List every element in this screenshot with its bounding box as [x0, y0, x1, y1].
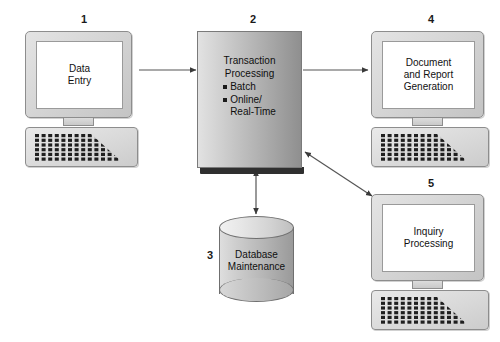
process-box-transaction-processing: Transaction Processing Batch Online/ Rea… — [197, 31, 302, 168]
process-box-content: Transaction Processing Batch Online/ Rea… — [198, 55, 301, 119]
node-document-report-generation[interactable]: Document and Report Generation — [371, 31, 491, 171]
monitor-screen-inquiry: Inquiry Processing — [382, 204, 475, 272]
keyboard-document-report[interactable] — [371, 127, 489, 167]
monitor-neck-document-report — [412, 118, 443, 126]
keyboard-data-entry[interactable] — [25, 127, 138, 167]
keyboard-keys-icon — [35, 134, 130, 163]
node-database-maintenance[interactable]: Database Maintenance — [219, 216, 294, 306]
screen-label-document-report: Document and Report Generation — [402, 57, 455, 93]
screen-label-line: Entry — [68, 75, 91, 87]
screen-label-line: Data — [68, 63, 91, 75]
monitor-screen-document-report: Document and Report Generation — [382, 41, 475, 109]
cylinder-top-ellipse — [219, 216, 294, 239]
screen-label-data-entry: Data Entry — [66, 63, 93, 87]
process-bullet-continuation: Real-Time — [223, 106, 276, 119]
process-bullet-item: Online/ — [223, 94, 276, 107]
process-bullet-label: Batch — [230, 81, 256, 92]
cylinder-bottom-ellipse — [219, 278, 294, 302]
monitor-shell-data-entry: Data Entry — [25, 31, 132, 118]
process-heading-line: Transaction — [198, 55, 301, 68]
screen-label-line: Processing — [404, 238, 453, 250]
screen-label-inquiry: Inquiry Processing — [402, 226, 455, 250]
monitor-neck-data-entry — [63, 118, 94, 126]
keyboard-inquiry[interactable] — [371, 290, 489, 330]
screen-label-line: Inquiry — [404, 226, 453, 238]
monitor-neck-inquiry — [412, 281, 443, 289]
process-heading-line: Processing — [198, 68, 301, 81]
step-number-4: 4 — [421, 13, 441, 25]
monitor-shell-document-report: Document and Report Generation — [371, 31, 484, 118]
bullet-square-icon — [223, 85, 227, 89]
keyboard-keys-icon — [381, 297, 476, 326]
connector-processing-to-inquiry — [305, 152, 372, 196]
cylinder-label-line: Database — [219, 249, 294, 261]
monitor-screen-data-entry: Data Entry — [36, 41, 123, 109]
process-bullet-label: Online/ — [230, 94, 262, 105]
screen-label-line: and Report — [404, 69, 453, 81]
step-number-5: 5 — [421, 177, 441, 189]
screen-label-line: Document — [404, 57, 453, 69]
process-bullet-item: Batch — [223, 81, 276, 94]
cylinder-label: Database Maintenance — [219, 249, 294, 273]
node-data-entry[interactable]: Data Entry — [25, 31, 140, 171]
diagram-canvas: 1 Data Entry — [0, 0, 500, 342]
step-number-3: 3 — [200, 249, 220, 261]
cylinder-label-line: Maintenance — [219, 261, 294, 273]
bullet-square-icon — [223, 98, 227, 102]
process-bullet-list: Batch Online/ Real-Time — [223, 81, 276, 119]
step-number-1: 1 — [74, 13, 94, 25]
process-box-shadow — [200, 167, 304, 174]
screen-label-line: Generation — [404, 81, 453, 93]
step-number-2: 2 — [243, 13, 263, 25]
keyboard-keys-icon — [381, 134, 476, 163]
monitor-shell-inquiry: Inquiry Processing — [371, 194, 484, 281]
node-inquiry-processing[interactable]: Inquiry Processing — [371, 194, 491, 334]
